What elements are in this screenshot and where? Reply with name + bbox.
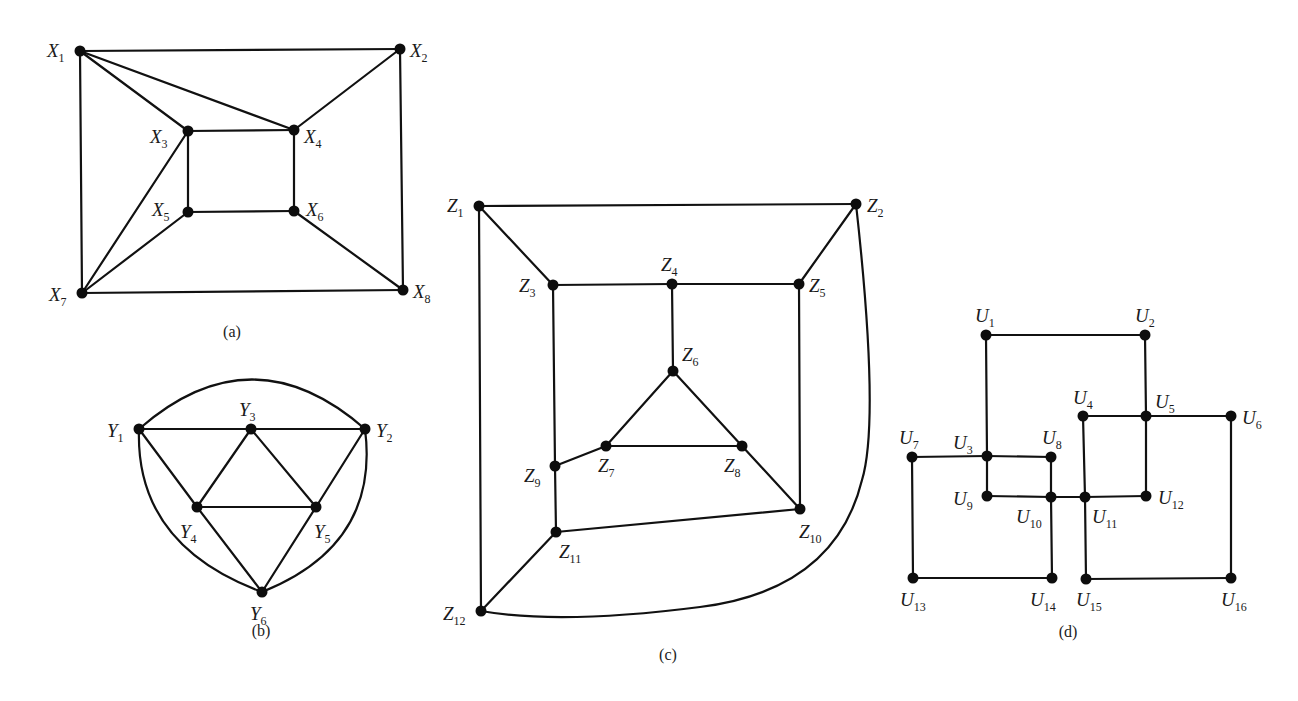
vertex-label: Z9: [524, 465, 541, 490]
graph-vertex: [550, 461, 561, 472]
graph-vertex: [257, 587, 268, 598]
graph-edge: [673, 371, 742, 446]
graph-vertex: [908, 573, 919, 584]
graph-edge: [1083, 416, 1085, 497]
vertex-label: Z1: [447, 195, 464, 220]
graph-vertex: [395, 44, 406, 55]
graph-edge: [742, 446, 800, 509]
vertex-label: Z7: [598, 455, 615, 480]
vertex-label: U11: [1092, 506, 1117, 531]
vertex-label: U13: [900, 589, 926, 614]
graph-vertex: [311, 502, 322, 513]
graph-vertex: [77, 288, 88, 299]
vertex-label: Z3: [519, 275, 536, 300]
graph-edge: [188, 211, 294, 212]
graph-edge: [139, 429, 197, 507]
figure-caption: (c): [659, 646, 677, 664]
graph-vertex: [1078, 411, 1089, 422]
graph-vertex: [360, 424, 371, 435]
graph-vertex: [551, 527, 562, 538]
graph-vertex: [183, 126, 194, 137]
graph-edge: [553, 285, 555, 466]
graph-vertex: [668, 366, 679, 377]
graph-edge: [80, 51, 82, 293]
vertex-label: U1: [975, 305, 995, 330]
graph-vertex: [289, 125, 300, 136]
graph-vertex: [289, 206, 300, 217]
graph-edge: [479, 206, 553, 285]
graph-a: X1X2X3X4X5X6X7X8(a): [46, 40, 431, 341]
graph-vertex: [1141, 491, 1152, 502]
graph-vertex: [794, 279, 805, 290]
vertex-label: X2: [409, 40, 428, 65]
graph-edge: [1085, 496, 1146, 497]
graph-edge: [294, 211, 403, 290]
graph-edge: [606, 371, 673, 446]
figure-caption: (b): [252, 622, 271, 640]
graph-vertex: [981, 330, 992, 341]
vertex-label: Z2: [867, 195, 884, 220]
vertex-label: X1: [46, 40, 65, 65]
graph-edge: [556, 509, 800, 532]
graph-vertex: [398, 285, 409, 296]
graph-edge: [316, 429, 365, 507]
graph-vertex: [134, 424, 145, 435]
graph-vertex: [907, 452, 918, 463]
graph-edge: [912, 457, 913, 578]
graph-b: Y1Y2Y3Y4Y5Y6(b): [107, 380, 393, 641]
graph-edge: [82, 290, 403, 293]
graph-edge: [912, 456, 987, 457]
graph-vertex: [1080, 492, 1091, 503]
graph-edge: [553, 284, 672, 285]
graph-edge: [1085, 497, 1086, 579]
graph-vertex: [1141, 411, 1152, 422]
graph-edge: [251, 429, 316, 507]
vertex-label: Y4: [180, 521, 197, 546]
graph-vertex: [183, 207, 194, 218]
vertex-label: U10: [1016, 506, 1042, 531]
graph-edge: [188, 130, 294, 131]
vertex-label: Y2: [376, 420, 393, 445]
graph-edge: [197, 429, 251, 507]
graph-vertex: [737, 441, 748, 452]
graph-edge: [80, 51, 188, 131]
vertex-label: Z12: [443, 603, 466, 628]
vertex-label: X4: [303, 126, 322, 151]
graph-vertex: [851, 199, 862, 210]
graph-edge: [987, 456, 1051, 457]
graph-vertex: [982, 491, 993, 502]
vertex-label: U2: [1135, 305, 1155, 330]
graph-vertex: [982, 451, 993, 462]
graph-vertex: [667, 279, 678, 290]
vertex-label: U9: [953, 488, 973, 513]
graph-edge: [80, 51, 294, 130]
graph-edge: [400, 49, 403, 290]
vertex-label: Z5: [809, 275, 826, 300]
vertex-label: U4: [1073, 387, 1093, 412]
vertex-label: X3: [149, 126, 168, 151]
graph-vertex: [1047, 573, 1058, 584]
vertex-label: Z11: [559, 541, 581, 566]
graph-edge: [1145, 335, 1146, 416]
vertex-label: U16: [1221, 589, 1247, 614]
vertex-label: U6: [1242, 407, 1262, 432]
vertex-label: U15: [1076, 589, 1102, 614]
vertex-label: U8: [1042, 427, 1062, 452]
vertex-label: Y3: [239, 399, 256, 424]
figure-caption: (a): [223, 323, 241, 341]
vertex-label: Z8: [724, 455, 741, 480]
graph-edge: [555, 466, 556, 532]
vertex-label: U14: [1030, 589, 1056, 614]
graph-edge: [672, 284, 673, 371]
graph-vertex: [1226, 573, 1237, 584]
graph-vertex: [795, 504, 806, 515]
graph-vertex: [548, 280, 559, 291]
vertex-label: U7: [899, 427, 919, 452]
graph-edge: [481, 532, 556, 611]
vertex-label: Y1: [107, 420, 124, 445]
graph-vertex: [192, 502, 203, 513]
graph-vertex: [1046, 492, 1057, 503]
vertex-label: Z4: [661, 254, 678, 279]
graph-vertex: [1046, 452, 1057, 463]
vertex-label: X5: [151, 199, 170, 224]
